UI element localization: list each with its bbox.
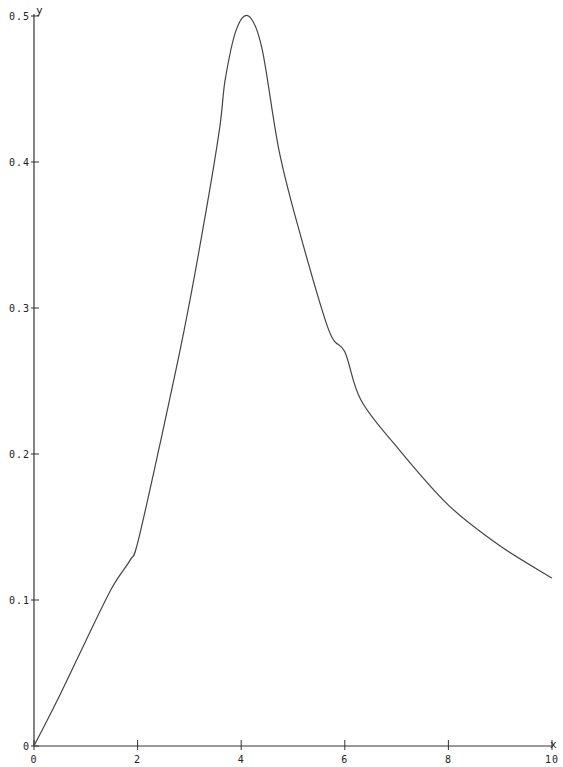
data-curve (34, 15, 552, 746)
y-tick-label: 0.2 (9, 449, 30, 460)
x-tick-label: 6 (341, 754, 348, 765)
y-tick-label: 0.1 (9, 595, 30, 606)
x-ticks: 0246810 (30, 740, 559, 765)
x-tick-label: 0 (30, 754, 37, 765)
x-tick-label: 4 (238, 754, 245, 765)
y-axis-label: y (36, 4, 43, 17)
x-tick-label: 8 (445, 754, 452, 765)
y-tick-label: 0 (23, 741, 30, 752)
y-tick-label: 0.4 (9, 157, 30, 168)
x-tick-label: 10 (545, 754, 559, 765)
x-tick-label: 2 (134, 754, 141, 765)
line-chart: 0246810 00.10.20.30.40.5 x y (0, 0, 563, 767)
y-tick-label: 0.3 (9, 303, 30, 314)
y-tick-label: 0.5 (9, 11, 30, 22)
x-axis-label: x (550, 738, 557, 751)
